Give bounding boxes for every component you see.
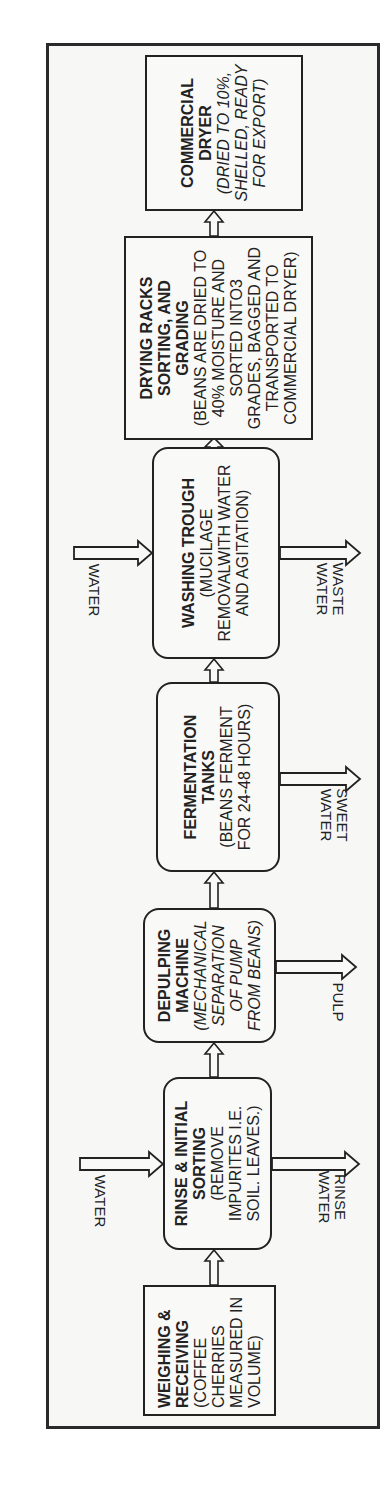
output-label-rinse-water: RINSE WATER <box>316 1169 348 1225</box>
step-title: COMMERCIAL DRYER <box>179 63 215 203</box>
step-title: FERMENTATION TANKS <box>182 690 218 864</box>
step-title: DEPULPING MACHINE <box>156 916 192 1035</box>
step-desc: (BEANS FERMENT FOR 24-48 HOURS) <box>218 690 254 864</box>
step-title: RINSE & INITIAL SORTING <box>173 1085 209 1242</box>
step-title: WASHING TROUGH <box>180 478 198 628</box>
output-label-sweet-water: SWEET WATER <box>318 787 350 843</box>
step-title: DRYING RACKS SORTING, AND GRADING <box>138 244 192 432</box>
step-title: WEIGHING & RECEIVING <box>156 1293 192 1408</box>
step-weighing-receiving: WEIGHING & RECEIVING (COFFEE CHERRIES ME… <box>143 1285 276 1416</box>
input-label-water-rinse: WATER <box>92 1173 108 1229</box>
step-desc: (COFFEE CHERRIES MEASURED IN VOLUME) <box>192 1293 264 1408</box>
step-desc: (MUCILAGE REMOVALWITH WATER AND AGITATIO… <box>198 455 252 651</box>
step-commercial-dryer: COMMERCIAL DRYER (DRIED TO 10%, SHELLED,… <box>145 55 303 211</box>
output-label-pulp: PULP <box>330 977 346 1027</box>
step-desc: (REMOVE IMPURITES I.E. SOIL. LEAVES.) <box>209 1085 263 1242</box>
step-rinse-sorting: RINSE & INITIAL SORTING (REMOVE IMPURITE… <box>163 1077 272 1250</box>
step-drying-racks: DRYING RACKS SORTING, AND GRADING (BEANS… <box>124 236 313 440</box>
step-desc: (DRIED TO 10%, SHELLED, READY FOR EXPORT… <box>215 63 269 203</box>
step-fermentation-tanks: FERMENTATION TANKS (BEANS FERMENT FOR 24… <box>156 682 280 872</box>
step-washing-trough: WASHING TROUGH (MUCILAGE REMOVALWITH WAT… <box>152 447 280 659</box>
step-depulping-machine: DEPULPING MACHINE (MECHANICAL SEPARATION… <box>143 908 276 1043</box>
flow-canvas: WEIGHING & RECEIVING (COFFEE CHERRIES ME… <box>46 43 380 1429</box>
diagram-frame: WEIGHING & RECEIVING (COFFEE CHERRIES ME… <box>46 43 380 1429</box>
output-label-waste-water: WASTE WATER <box>314 561 346 617</box>
input-label-water-washing: WATER <box>86 562 102 618</box>
step-desc: (MECHANICAL SEPARATION OF PUMP FROM BEAN… <box>192 916 264 1035</box>
step-desc: (BEANS ARE DRIED TO 40% MOISTURE AND SOR… <box>192 244 300 432</box>
